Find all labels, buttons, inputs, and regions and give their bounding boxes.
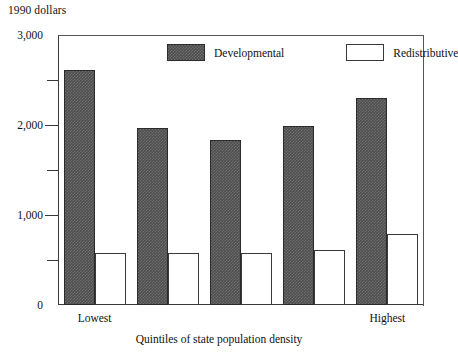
bar-redistributive-q3 bbox=[241, 253, 272, 305]
x-axis-label-lowest: Lowest bbox=[78, 312, 112, 324]
bar-redistributive-q4 bbox=[314, 250, 345, 305]
bar-redistributive-q2 bbox=[168, 253, 199, 305]
bar-developmental-q1 bbox=[64, 70, 95, 305]
bar-redistributive-q1 bbox=[95, 253, 126, 305]
legend-label-redistributive: Redistributive bbox=[393, 47, 458, 59]
legend-item-developmental: Developmental bbox=[167, 44, 284, 61]
legend-item-redistributive: Redistributive bbox=[346, 44, 458, 61]
chart-legend: Developmental Redistributive bbox=[167, 44, 458, 61]
bar-developmental-q2 bbox=[137, 128, 168, 305]
bar-redistributive-q5 bbox=[387, 234, 418, 305]
bar-developmental-q4 bbox=[283, 126, 314, 305]
x-axis-label-highest: Highest bbox=[370, 312, 406, 324]
x-axis-title: Quintiles of state population density bbox=[0, 333, 438, 345]
bar-developmental-q3 bbox=[210, 140, 241, 305]
bar-developmental-q5 bbox=[356, 98, 387, 305]
legend-label-developmental: Developmental bbox=[214, 47, 284, 59]
legend-swatch-redistributive-icon bbox=[346, 44, 384, 61]
legend-swatch-developmental-icon bbox=[167, 44, 205, 61]
